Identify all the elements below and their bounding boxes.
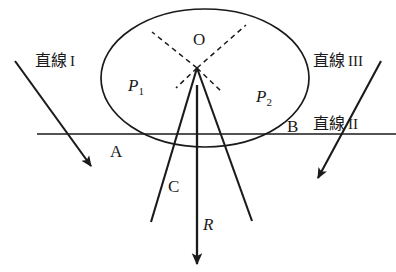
- label-line-iii-text: 直線: [313, 51, 345, 70]
- label-line-i-text: 直線: [35, 51, 67, 70]
- segment-p2: [151, 68, 197, 222]
- label-p1-subscript: 1: [138, 85, 144, 97]
- label-line-iii-numeral: III: [345, 53, 363, 69]
- label-p2-subscript: 2: [266, 96, 272, 108]
- label-line-ii-text: 直線: [313, 114, 345, 133]
- label-line-iii: 直線III: [313, 53, 363, 69]
- label-p2-base: P: [256, 87, 266, 106]
- label-p1: P1: [128, 77, 144, 97]
- label-line-i-numeral: I: [67, 53, 75, 69]
- label-p2: P2: [256, 88, 272, 108]
- segment-p1: [197, 68, 252, 221]
- label-point-b: B: [287, 118, 298, 135]
- label-point-a: A: [110, 143, 122, 160]
- label-line-ii: 直線II: [313, 116, 358, 132]
- geometry-figure: O A B C R P1 P2 直線I 直線II 直線III: [0, 0, 396, 272]
- label-line-i: 直線I: [35, 53, 75, 69]
- label-center-o: O: [193, 31, 205, 48]
- label-p1-base: P: [128, 76, 138, 95]
- line-i-stroke: [15, 61, 91, 166]
- label-point-c: C: [168, 178, 179, 195]
- label-ray-r: R: [203, 216, 213, 233]
- label-line-ii-numeral: II: [345, 116, 358, 132]
